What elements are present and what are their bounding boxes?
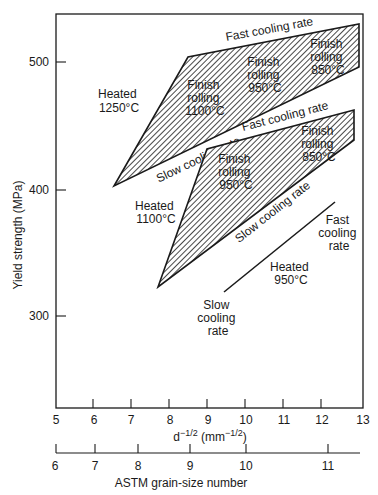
- astm-axis-label: ASTM grain-size number: [115, 476, 248, 490]
- y-axis-tick-labels: 500 400 300: [29, 55, 49, 323]
- yield-strength-chart: 500 400 300 Yield strength (MPa) 5 6 7 8…: [0, 0, 378, 495]
- astm-axis: [56, 444, 360, 453]
- x-tick-9: 9: [205, 413, 212, 427]
- x-tick-12: 12: [315, 413, 329, 427]
- label-heated-1250: Heated 1250°C: [98, 87, 140, 115]
- x-tick-11: 11: [278, 413, 291, 427]
- x-tick-6: 6: [91, 413, 98, 427]
- astm-tick-10: 10: [239, 459, 253, 473]
- x-tick-13: 13: [356, 413, 370, 427]
- finish-850-a: Finish rolling 850°C: [310, 37, 345, 77]
- label-heated-950: Heated 950°C: [270, 260, 312, 287]
- finish-950-a: Finish rolling 950°C: [247, 55, 282, 95]
- x-tick-10: 10: [239, 413, 253, 427]
- label-heated-1100: Heated 1100°C: [135, 199, 177, 226]
- astm-tick-6: 6: [52, 459, 59, 473]
- astm-tick-9: 9: [187, 459, 194, 473]
- label-fast-cooling-950: Fast cooling rate: [318, 213, 359, 253]
- finish-850-b: Finish rolling 850°C: [301, 124, 336, 164]
- x-tick-5: 5: [53, 413, 60, 427]
- astm-tick-7: 7: [92, 459, 99, 473]
- x-axis-label: d−1/2 (mm−1/2): [173, 428, 247, 444]
- astm-tick-8: 8: [135, 459, 142, 473]
- label-slow-cooling-950: Slow cooling rate: [197, 298, 238, 338]
- finish-1100: Finish rolling 1100°C: [185, 78, 225, 118]
- finish-950-b: Finish rolling 950°C: [218, 152, 253, 192]
- astm-tick-labels: 6 7 8 9 10 11: [52, 459, 335, 473]
- x-tick-7: 7: [128, 413, 135, 427]
- y-tick-500: 500: [29, 55, 49, 69]
- x-axis-ticks: [93, 399, 321, 408]
- y-tick-300: 300: [29, 309, 49, 323]
- y-axis-label: Yield strength (MPa): [11, 181, 25, 290]
- y-tick-400: 400: [29, 183, 49, 197]
- y-axis-ticks: [56, 62, 66, 316]
- x-axis-tick-labels: 5 6 7 8 9 10 11 12 13: [53, 413, 370, 427]
- x-tick-8: 8: [167, 413, 174, 427]
- astm-tick-11: 11: [322, 459, 335, 473]
